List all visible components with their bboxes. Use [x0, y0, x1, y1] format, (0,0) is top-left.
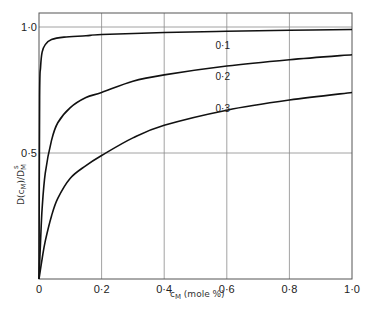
curve-label: 0·2: [216, 71, 231, 82]
y-axis-label: D(cM)/DMs: [12, 164, 28, 205]
curve-labels: 0·10·20·3: [216, 40, 231, 114]
y-tick-label: 0·5: [21, 147, 37, 159]
x-tick-label: 0: [36, 283, 42, 295]
plot-frame: [39, 13, 352, 279]
curve-label: 0·1: [216, 40, 231, 51]
curve-label: 0·3: [216, 103, 231, 114]
plot-border: [39, 13, 352, 279]
x-tick-label: 0·2: [94, 283, 110, 295]
curve-0·2: [39, 55, 352, 279]
grid-lines: [39, 13, 352, 279]
y-tick-label: 1·0: [21, 21, 37, 33]
y-axis-ticks: 0·51·0: [21, 21, 37, 159]
curve-0·3: [39, 93, 352, 279]
x-axis-label: cM (mole %): [170, 289, 225, 301]
data-curves: [39, 30, 352, 279]
curve-0·1: [39, 30, 352, 279]
chart-canvas: 00·20·40·60·81·0 0·51·0 0·10·20·3 cM (mo…: [0, 0, 370, 309]
x-tick-label: 0·8: [281, 283, 297, 295]
x-tick-label: 1·0: [344, 283, 360, 295]
